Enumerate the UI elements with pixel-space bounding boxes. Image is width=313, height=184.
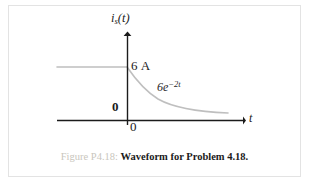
plot-area: is(t) t 6 A 6e−2t 0 0: [0, 0, 313, 150]
y-axis-label-argument: (t): [118, 11, 130, 25]
curve-equation-base: 6e: [157, 80, 168, 94]
figure-caption-number: Figure P4.18:: [61, 151, 121, 162]
figure-caption-text: Waveform for Problem 4.18.: [121, 151, 249, 162]
curve-equation-exponent: −2t: [168, 79, 180, 89]
x-axis-origin-label: 0: [130, 120, 137, 133]
figure-container: is(t) t 6 A 6e−2t 0 0 Figure P4.18: Wave…: [0, 0, 313, 184]
x-axis-label: t: [249, 112, 252, 124]
x-axis-arrowhead: [243, 117, 246, 125]
peak-value-label: 6 A: [131, 59, 150, 72]
y-axis-label: is(t): [111, 12, 130, 25]
y-axis-arrowhead: [124, 32, 132, 37]
curve-equation-label: 6e−2t: [157, 80, 181, 93]
figure-caption: Figure P4.18: Waveform for Problem 4.18.: [8, 150, 301, 164]
y-axis-origin-label: 0: [112, 100, 119, 113]
waveform-plot-svg: [0, 0, 313, 150]
